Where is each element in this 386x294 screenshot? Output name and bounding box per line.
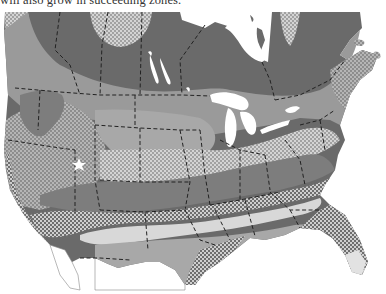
hardiness-zone-map bbox=[0, 0, 386, 294]
